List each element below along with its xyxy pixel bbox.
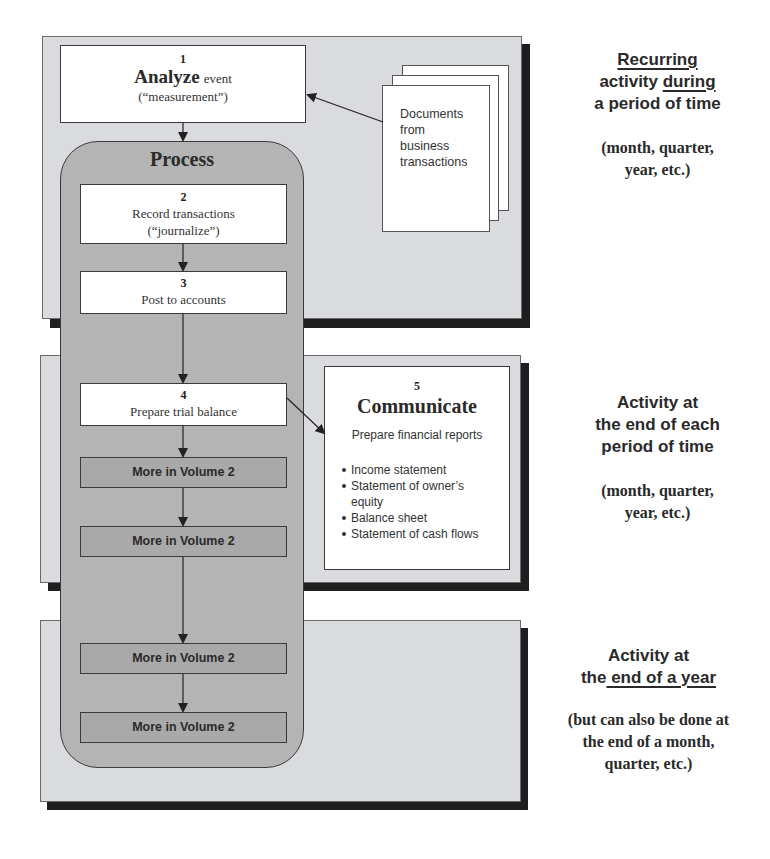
step-4-trial-balance-box: 4 Prepare trial balance xyxy=(80,383,287,426)
step-title: Prepare trial balance xyxy=(81,403,286,420)
more-in-volume-2-box: More in Volume 2 xyxy=(80,526,287,557)
report-item: Balance sheet xyxy=(339,510,509,526)
step-3-post-box: 3 Post to accounts xyxy=(80,271,287,314)
step-number: 2 xyxy=(81,190,286,205)
step-subtitle: Prepare financial reports xyxy=(325,428,509,442)
step-5-communicate-box: 5 Communicate Prepare financial reports … xyxy=(324,366,510,570)
report-item: Statement of cash flows xyxy=(339,526,509,542)
step-title-suffix: event xyxy=(204,71,232,86)
step-title: Record transactions xyxy=(81,205,286,222)
step-number: 1 xyxy=(61,52,305,67)
step-title: Analyze xyxy=(134,66,199,87)
process-label: Process xyxy=(61,148,303,171)
more-in-volume-2-box: More in Volume 2 xyxy=(80,643,287,674)
step-1-analyze-box: 1 Analyze event (“measurement”) xyxy=(60,45,306,123)
step-title: Communicate xyxy=(325,394,509,418)
documents-label: Documents from business transactions xyxy=(400,106,467,170)
side-note-period-end: Activity at the end of each period of ti… xyxy=(545,392,770,524)
step-title: Post to accounts xyxy=(81,291,286,308)
report-item: Income statement xyxy=(339,462,509,478)
financial-reports-list: Income statement Statement of owner’s eq… xyxy=(339,462,509,542)
side-note-year-end: Activity at the end of a year (but can a… xyxy=(527,645,770,775)
report-item: Statement of owner’s equity xyxy=(339,478,491,510)
side-note-recurring: Recurring activity during a period of ti… xyxy=(545,49,770,181)
step-subtitle: (“journalize”) xyxy=(81,222,286,239)
step-2-record-box: 2 Record transactions (“journalize”) xyxy=(80,184,287,244)
step-number: 4 xyxy=(81,388,286,403)
step-number: 5 xyxy=(325,379,509,394)
step-subtitle: (“measurement”) xyxy=(61,89,305,105)
more-in-volume-2-box: More in Volume 2 xyxy=(80,457,287,488)
document-sheet-front: Documents from business transactions xyxy=(382,85,490,232)
more-in-volume-2-box: More in Volume 2 xyxy=(80,712,287,743)
step-number: 3 xyxy=(81,276,286,291)
underline-recurring: Recurring xyxy=(617,50,697,69)
